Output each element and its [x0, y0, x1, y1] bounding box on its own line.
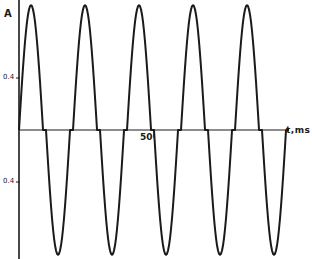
waveform-chart — [0, 0, 312, 259]
y-tick-label-pos-0.4: 0.4 — [3, 74, 14, 81]
x-axis-label: t,ms — [286, 126, 310, 135]
x-tick-label-50: 50 — [140, 133, 153, 142]
y-axis-label: A — [4, 9, 12, 19]
y-tick-label-neg-0.4: 0.4 — [3, 178, 14, 185]
